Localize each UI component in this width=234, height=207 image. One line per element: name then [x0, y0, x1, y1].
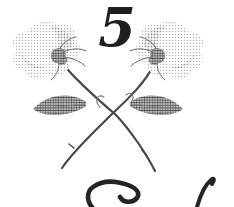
script-letter-c-top: [88, 182, 138, 207]
chapter-number: 5: [98, 0, 136, 60]
script-text-fragment: [88, 179, 214, 207]
stem-thorn: [69, 144, 74, 148]
right-rose: [130, 21, 203, 115]
left-rose: [13, 21, 86, 115]
crossed-stems: [61, 62, 155, 171]
chapter-ornament-graphic: 5: [0, 0, 234, 207]
script-letter-ascender: [197, 179, 214, 207]
scanned-chapter-page: 5: [0, 0, 234, 207]
